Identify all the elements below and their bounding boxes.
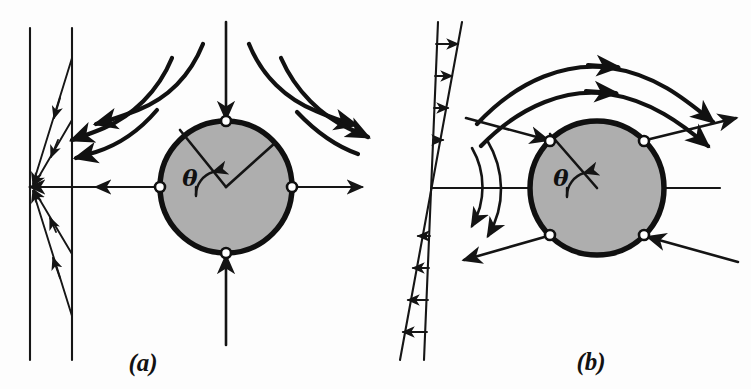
streamline-b-upper-inner-arrow	[586, 91, 616, 93]
panel-label-b: (b)	[576, 348, 605, 376]
stagnation-point-upper-right	[639, 136, 649, 146]
stagnation-point-top	[221, 116, 231, 126]
stagnation-point-lower-left	[545, 230, 555, 240]
streamline-b-upper-outer-arrow	[588, 65, 618, 67]
figure-root: θ (a)	[0, 0, 751, 389]
panel-a-cylinder	[160, 121, 292, 253]
stagnation-point-left	[155, 182, 165, 192]
theta-symbol-b: θ	[553, 164, 569, 191]
flow-diagram-svg: θ (a)	[0, 0, 751, 389]
theta-symbol-a: θ	[182, 164, 198, 191]
stagnation-point-upper-left	[545, 136, 555, 146]
stagnation-point-lower-right	[639, 230, 649, 240]
panel-label-a: (a)	[128, 349, 157, 377]
stagnation-point-right	[287, 182, 297, 192]
stagnation-point-bottom	[221, 248, 231, 258]
